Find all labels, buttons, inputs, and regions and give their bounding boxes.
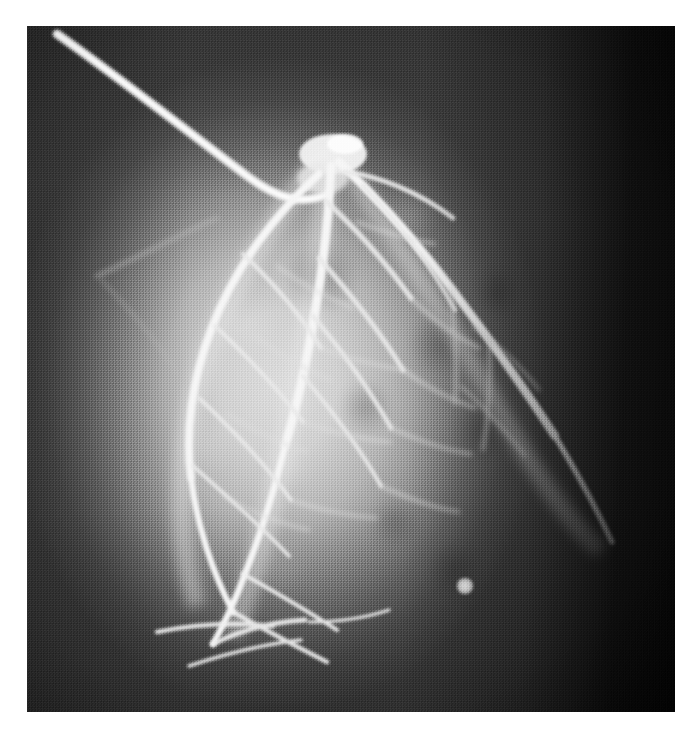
bleed-through-ghost-text [30,714,650,732]
vignette-overlay [27,26,675,712]
page-canvas [0,0,698,732]
coronary-angiogram-plate [27,26,675,712]
